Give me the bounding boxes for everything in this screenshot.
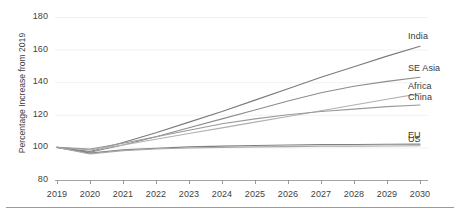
x-tick-label: 2021 xyxy=(106,189,140,199)
series-line-china xyxy=(57,105,420,149)
x-tick-label: 2029 xyxy=(370,189,404,199)
series-label-china: China xyxy=(408,92,432,102)
x-tick-label: 2026 xyxy=(271,189,305,199)
y-tick-label: 120 xyxy=(22,109,48,119)
series-label-us: US xyxy=(408,134,421,144)
series-label-se-asia: SE Asia xyxy=(408,63,440,73)
x-tick-label: 2022 xyxy=(139,189,173,199)
x-tick-label: 2030 xyxy=(403,189,437,199)
x-tick-label: 2019 xyxy=(40,189,74,199)
x-tick-label: 2023 xyxy=(172,189,206,199)
series-line-se-asia xyxy=(57,77,420,152)
gridlines xyxy=(55,18,428,181)
series-label-india: India xyxy=(408,31,428,41)
plot-area xyxy=(0,0,460,215)
series-lines xyxy=(57,46,420,154)
x-tick-label: 2028 xyxy=(337,189,371,199)
y-tick-label: 140 xyxy=(22,76,48,86)
series-label-africa: Africa xyxy=(408,81,432,91)
x-tick-label: 2027 xyxy=(304,189,338,199)
x-tick-label: 2025 xyxy=(238,189,272,199)
y-tick-label: 80 xyxy=(22,174,48,184)
y-tick-label: 180 xyxy=(22,11,48,21)
percentage-increase-line-chart: Percentage Increase from 2019 8010012014… xyxy=(0,0,460,215)
y-tick-label: 100 xyxy=(22,141,48,151)
x-tick-label: 2020 xyxy=(73,189,107,199)
x-tick-label: 2024 xyxy=(205,189,239,199)
series-line-india xyxy=(57,46,420,151)
footer-rule xyxy=(6,207,454,208)
y-tick-label: 160 xyxy=(22,44,48,54)
